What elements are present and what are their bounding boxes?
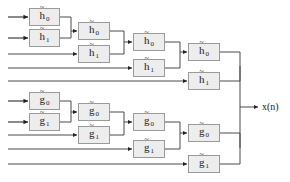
filter-label: g~0 [199, 126, 209, 140]
filter-box-h0-stage4[interactable]: h~0 [188, 43, 220, 61]
filter-label: g~1 [199, 157, 209, 171]
filter-label: g~1 [144, 142, 154, 156]
filter-box-h1-stage4[interactable]: h~1 [188, 72, 220, 90]
filter-label: h~1 [199, 74, 209, 88]
filter-label: h~0 [199, 45, 209, 59]
filter-label: h~0 [89, 24, 99, 38]
filter-box-g1-stage3[interactable]: g~1 [133, 140, 165, 158]
filter-box-g0-stage2[interactable]: g~0 [78, 103, 110, 121]
filter-box-h1-stage2[interactable]: h~1 [78, 45, 110, 63]
filter-label: h~1 [144, 61, 154, 75]
filter-box-g0-stage4[interactable]: g~0 [188, 124, 220, 142]
filter-box-h1-stage3[interactable]: h~1 [133, 59, 165, 77]
filter-label: g~1 [40, 115, 50, 129]
filter-box-h1-stage1[interactable]: h~1 [29, 29, 60, 47]
filter-bank-diagram: h~0 h~1 h~0 h~1 h~0 h~1 h~0 h~1 g~0 g~1 … [0, 0, 290, 182]
filter-label: g~0 [144, 115, 154, 129]
filter-box-h0-stage2[interactable]: h~0 [78, 22, 110, 40]
filter-label: g~1 [89, 128, 99, 142]
filter-label: h~0 [40, 10, 50, 24]
filter-label: h~1 [40, 31, 50, 45]
filter-box-g1-stage1[interactable]: g~1 [29, 113, 60, 131]
filter-box-g0-stage3[interactable]: g~0 [133, 113, 165, 131]
filter-box-h0-stage1[interactable]: h~0 [29, 8, 60, 26]
filter-label: g~0 [40, 94, 50, 108]
filter-label: g~0 [89, 105, 99, 119]
filter-box-g1-stage4[interactable]: g~1 [188, 155, 220, 173]
filter-label: h~1 [89, 47, 99, 61]
filter-box-g0-stage1[interactable]: g~0 [29, 92, 60, 110]
filter-box-g1-stage2[interactable]: g~1 [78, 126, 110, 144]
filter-box-h0-stage3[interactable]: h~0 [133, 33, 165, 51]
output-label: x(n) [262, 102, 279, 112]
filter-label: h~0 [144, 35, 154, 49]
